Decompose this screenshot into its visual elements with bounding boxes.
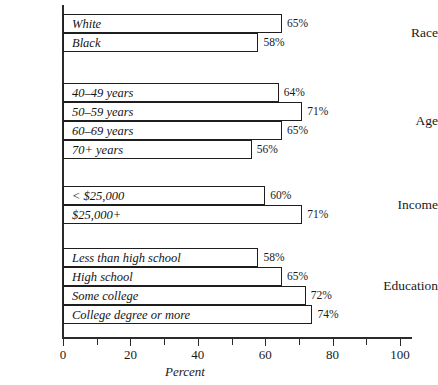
group-label-education: Education (338, 278, 438, 293)
bar-category-label: Some college (72, 287, 138, 306)
horizontal-bar-chart: 020406080100 Percent White65%Black58%40–… (0, 0, 438, 385)
bar-category-label: White (72, 15, 101, 34)
x-tick-label-100: 100 (380, 347, 420, 362)
group-label-income: Income (338, 197, 438, 212)
bar: College degree or more (63, 305, 312, 324)
bar-value-label: 64% (284, 83, 305, 102)
bar-value-label: 71% (307, 205, 328, 224)
x-minor-tick-70 (299, 339, 300, 345)
bar-value-label: 65% (287, 267, 308, 286)
x-tick-label-20: 20 (110, 347, 150, 362)
x-tick-100 (400, 339, 401, 346)
group-label-age: Age (338, 113, 438, 128)
x-tick-label-0: 0 (43, 347, 83, 362)
bar-value-label: 56% (257, 140, 278, 159)
bar-value-label: 58% (263, 248, 284, 267)
bar-category-label: 50–59 years (72, 103, 133, 122)
bar: 50–59 years (63, 102, 302, 121)
bar-value-label: 72% (311, 286, 332, 305)
bar: Less than high school (63, 248, 258, 267)
x-minor-tick-30 (164, 339, 165, 345)
bar: 40–49 years (63, 83, 279, 102)
bar-category-label: High school (72, 268, 133, 287)
bar-value-label: 71% (307, 102, 328, 121)
bar: High school (63, 267, 282, 286)
x-tick-0 (63, 339, 64, 346)
x-minor-tick-90 (366, 339, 367, 345)
x-tick-label-60: 60 (245, 347, 285, 362)
bar-value-label: 74% (317, 305, 338, 324)
x-axis-title-text: Percent (165, 364, 205, 380)
x-minor-tick-10 (97, 339, 98, 345)
bar-category-label: < $25,000 (72, 187, 124, 206)
bar-category-label: Black (72, 34, 100, 53)
x-tick-60 (265, 339, 266, 346)
bar: $25,000+ (63, 205, 302, 224)
bar-category-label: 40–49 years (72, 84, 133, 103)
bar-category-label: Less than high school (72, 249, 181, 268)
bar: < $25,000 (63, 186, 265, 205)
bar-category-label: $25,000+ (72, 206, 121, 225)
x-tick-80 (333, 339, 334, 346)
bar-category-label: 60–69 years (72, 122, 133, 141)
bar-value-label: 65% (287, 121, 308, 140)
x-tick-40 (198, 339, 199, 346)
bar: 60–69 years (63, 121, 282, 140)
bar: Some college (63, 286, 306, 305)
group-label-race: Race (338, 25, 438, 40)
bar: 70+ years (63, 140, 252, 159)
x-axis-line (62, 337, 412, 339)
bar: White (63, 14, 282, 33)
bar-category-label: 70+ years (72, 141, 123, 160)
bar-value-label: 60% (270, 186, 291, 205)
x-minor-tick-50 (232, 339, 233, 345)
bar-value-label: 58% (263, 33, 284, 52)
x-tick-label-80: 80 (313, 347, 353, 362)
bar: Black (63, 33, 258, 52)
bar-value-label: 65% (287, 14, 308, 33)
bar-category-label: College degree or more (72, 306, 190, 325)
x-tick-20 (130, 339, 131, 346)
x-axis-title: Percent (0, 364, 438, 380)
x-tick-label-40: 40 (178, 347, 218, 362)
